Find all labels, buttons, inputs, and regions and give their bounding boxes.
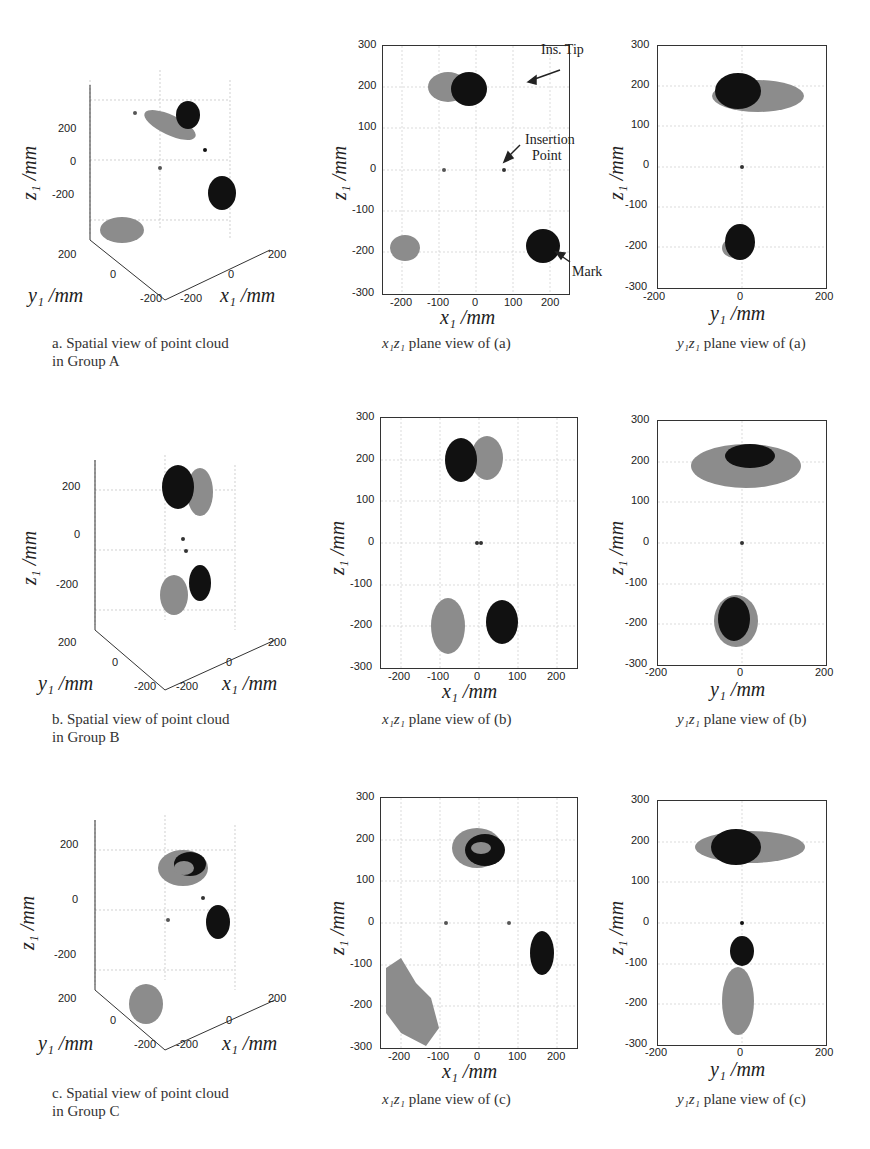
caption-a-line2: in Group A: [52, 352, 120, 370]
x-tick: 0: [737, 1046, 743, 1058]
y-axis-label: y₁ /mm: [28, 284, 83, 307]
panel-a-3d: 200 0 -200 200 0 -200 -200 0 200 z₁ /mm …: [0, 0, 320, 400]
x-tick: 100: [508, 670, 526, 682]
y-tick: 0: [643, 915, 649, 927]
y-tick: -100: [625, 198, 647, 210]
x-tick: 0: [228, 268, 234, 280]
y-tick: 300: [356, 410, 374, 422]
x-tick: 200: [815, 290, 833, 302]
caption-prefix: x₁z₁: [382, 335, 405, 351]
caption-a-xz: x₁z₁ plane view of (a): [382, 334, 511, 352]
y-tick: -200: [134, 680, 156, 692]
panel-b-3d: 200 0 -200 200 0 -200 -200 0 200 z₁ /mm …: [0, 400, 320, 780]
caption-b-line2: in Group B: [52, 728, 120, 746]
z-tick: 200: [58, 122, 76, 134]
y-tick: 300: [631, 793, 649, 805]
y-tick: 0: [110, 1014, 116, 1026]
x-tick: -200: [180, 292, 202, 304]
caption-text: plane view of (c): [409, 1091, 511, 1107]
plot-area: [657, 800, 827, 1046]
y-tick: -100: [625, 576, 647, 588]
plot-area: [380, 797, 578, 1049]
y-tick: 0: [370, 162, 376, 174]
y-axis-label: y₁ /mm: [38, 672, 93, 695]
caption-b-line1: b. Spatial view of point cloud: [52, 710, 229, 728]
panel-c-xz: 300 200 100 0 -100 -200 -300 -200 -100 0…: [320, 780, 610, 1149]
y-tick: -100: [625, 956, 647, 968]
z-tick: 0: [72, 893, 78, 905]
z-axis-label: z₁ /mm: [16, 896, 39, 950]
panel-c-yz: 300 200 100 0 -100 -200 -300 -200 0 200 …: [605, 780, 870, 1149]
panel-c-3d: 200 0 -200 200 0 -200 -200 0 200 z₁ /mm …: [0, 780, 320, 1149]
plot-area: [657, 45, 827, 289]
z-axis-label: z₁ /mm: [326, 521, 349, 575]
3d-axes-b: [0, 450, 320, 750]
y-tick: -200: [625, 616, 647, 628]
caption-b-yz: y₁z₁ plane view of (b): [677, 710, 807, 728]
y-tick: -200: [352, 244, 374, 256]
z-tick: 0: [74, 528, 80, 540]
panel-b-xz: 300 200 100 0 -100 -200 -300 -200 -100 0…: [320, 400, 610, 780]
z-axis-label: z₁ /mm: [18, 146, 41, 200]
3d-axes-a: [0, 60, 320, 360]
y-tick: 200: [58, 636, 76, 648]
x-axis-label: x₁ /mm: [220, 284, 275, 307]
y-tick: -300: [352, 286, 374, 298]
caption-prefix: y₁z₁: [677, 1091, 700, 1107]
caption-text: plane view of (b): [704, 711, 807, 727]
y-tick: 100: [631, 118, 649, 130]
y-axis-label: y₁ /mm: [710, 1058, 765, 1081]
x-tick: 100: [508, 1050, 526, 1062]
y-tick: 100: [358, 120, 376, 132]
y-tick: -300: [625, 657, 647, 669]
x-axis-label: x₁ /mm: [442, 680, 497, 703]
x-tick: 200: [268, 636, 286, 648]
panel-b-yz: 300 200 100 0 -100 -200 -300 -200 0 200 …: [605, 400, 870, 780]
z-tick: 200: [62, 480, 80, 492]
y-tick: 200: [631, 454, 649, 466]
y-tick: 0: [368, 535, 374, 547]
x-axis-label: x₁ /mm: [222, 1032, 277, 1055]
z-axis-label: z₁ /mm: [605, 521, 628, 575]
annotation-mark: Mark: [572, 264, 602, 279]
annotation-insertion-point-2: Point: [532, 148, 562, 163]
y-tick: 200: [631, 834, 649, 846]
x-tick: -200: [176, 1038, 198, 1050]
z-tick: -200: [56, 578, 78, 590]
y-tick: 300: [631, 413, 649, 425]
y-tick: 0: [112, 656, 118, 668]
y-tick: 300: [358, 38, 376, 50]
y-tick: 100: [631, 874, 649, 886]
x-tick: -200: [390, 296, 412, 308]
y-tick: 200: [58, 992, 76, 1004]
x-axis-label: x₁ /mm: [442, 1060, 497, 1083]
caption-c-yz: y₁z₁ plane view of (c): [677, 1090, 806, 1108]
y-tick: -200: [140, 292, 162, 304]
x-tick: -200: [643, 290, 665, 302]
y-tick: 0: [110, 268, 116, 280]
y-tick: 0: [643, 535, 649, 547]
y-tick: -100: [352, 203, 374, 215]
3d-axes-c: [0, 810, 320, 1110]
x-tick: 0: [226, 1014, 232, 1026]
y-tick: -300: [350, 660, 372, 672]
panel-a-yz: 300 200 100 0 -100 -200 -300 -200 0 200 …: [605, 0, 870, 400]
y-tick: -100: [350, 957, 372, 969]
caption-prefix: y₁z₁: [677, 335, 700, 351]
y-tick: 100: [631, 494, 649, 506]
x-tick: 0: [226, 656, 232, 668]
plot-area: [657, 420, 827, 666]
y-tick: -100: [350, 577, 372, 589]
x-tick: -200: [388, 1050, 410, 1062]
x-tick: 200: [815, 1046, 833, 1058]
y-axis-label: y₁ /mm: [710, 302, 765, 325]
y-tick: -200: [350, 998, 372, 1010]
z-tick: -200: [54, 948, 76, 960]
y-axis-label: y₁ /mm: [710, 678, 765, 701]
x-tick: -200: [645, 1046, 667, 1058]
x-tick: 200: [268, 248, 286, 260]
z-axis-label: z₁ /mm: [605, 901, 628, 955]
z-axis-label: z₁ /mm: [326, 901, 349, 955]
x-tick: -200: [645, 666, 667, 678]
y-tick: 0: [643, 158, 649, 170]
